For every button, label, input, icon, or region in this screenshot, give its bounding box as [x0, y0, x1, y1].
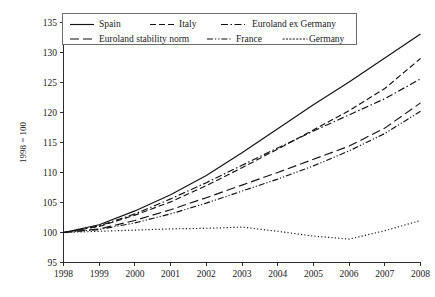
y-tick-label: 115 — [43, 138, 57, 148]
series-line-germany — [64, 221, 421, 240]
series-line-spain — [64, 34, 421, 233]
y-tick-label: 110 — [43, 168, 57, 178]
y-axis-title: 1998 = 100 — [18, 121, 28, 163]
x-tick-label: 2006 — [340, 269, 359, 279]
series-lines — [64, 34, 421, 239]
y-tick-label: 125 — [43, 78, 58, 88]
legend-label-italy: Italy — [179, 19, 197, 29]
x-axis-ticks: 1998199920002001200220032004200520062007… — [54, 263, 430, 279]
legend-label-euroland-ex-germany: Euroland ex Germany — [252, 19, 336, 29]
y-axis-group: 95100105110115120125130135 1998 = 100 — [18, 18, 64, 268]
x-tick-label: 1998 — [54, 269, 73, 279]
y-tick-label: 95 — [48, 258, 58, 268]
legend-label-spain: Spain — [99, 19, 121, 29]
y-tick-label: 120 — [43, 108, 58, 118]
x-tick-label: 2003 — [233, 269, 252, 279]
x-tick-label: 2000 — [125, 269, 144, 279]
chart-legend: SpainItalyEuroland ex GermanyEuroland st… — [63, 14, 357, 45]
line-chart: 95100105110115120125130135 1998 = 100 19… — [0, 0, 435, 297]
legend-label-germany: Germany — [309, 34, 345, 44]
x-tick-label: 2004 — [268, 269, 287, 279]
x-tick-label: 2007 — [375, 269, 394, 279]
series-line-italy — [64, 59, 421, 233]
x-tick-label: 1999 — [90, 269, 109, 279]
y-tick-label: 135 — [43, 18, 58, 28]
chart-container: 95100105110115120125130135 1998 = 100 19… — [0, 0, 435, 297]
series-line-france — [64, 111, 421, 232]
x-tick-label: 2002 — [197, 269, 216, 279]
legend-label-france: France — [236, 34, 262, 44]
y-tick-label: 100 — [43, 228, 58, 238]
y-tick-label: 130 — [43, 48, 58, 58]
x-tick-label: 2001 — [161, 269, 180, 279]
y-tick-label: 105 — [43, 198, 58, 208]
x-tick-label: 2008 — [411, 269, 430, 279]
series-line-euroland-ex-germany — [64, 79, 421, 233]
y-axis-ticks: 95100105110115120125130135 — [43, 18, 64, 268]
x-axis-group: 1998199920002001200220032004200520062007… — [54, 263, 430, 279]
x-tick-label: 2005 — [304, 269, 323, 279]
legend-label-euroland-stability-norm: Euroland stability norm — [99, 34, 190, 44]
